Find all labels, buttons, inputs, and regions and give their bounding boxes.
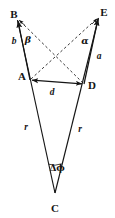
angle-label-delta-phi: Δϕ	[49, 164, 64, 173]
point-label-E: E	[100, 7, 107, 18]
point-label-C: C	[51, 203, 59, 214]
dashed-arrowhead-toward-E	[92, 19, 97, 24]
angle-label-beta: β	[25, 35, 31, 45]
point-label-A: A	[18, 71, 26, 82]
segment-label-d: d	[50, 88, 55, 98]
point-label-D: D	[88, 80, 96, 91]
diagram-canvas	[0, 0, 115, 218]
chord-A-D	[32, 80, 82, 84]
angle-label-alpha: α	[81, 36, 88, 46]
dashed-arrowhead-toward-B	[19, 20, 25, 25]
segment-label-r-left: r	[24, 123, 28, 133]
geometry-diagram: B E A D C b a d r r β α Δϕ	[0, 0, 115, 218]
segment-label-b: b	[12, 37, 17, 47]
segment-label-a: a	[97, 52, 102, 62]
segment-label-r-right: r	[78, 125, 82, 135]
point-label-B: B	[10, 9, 17, 20]
